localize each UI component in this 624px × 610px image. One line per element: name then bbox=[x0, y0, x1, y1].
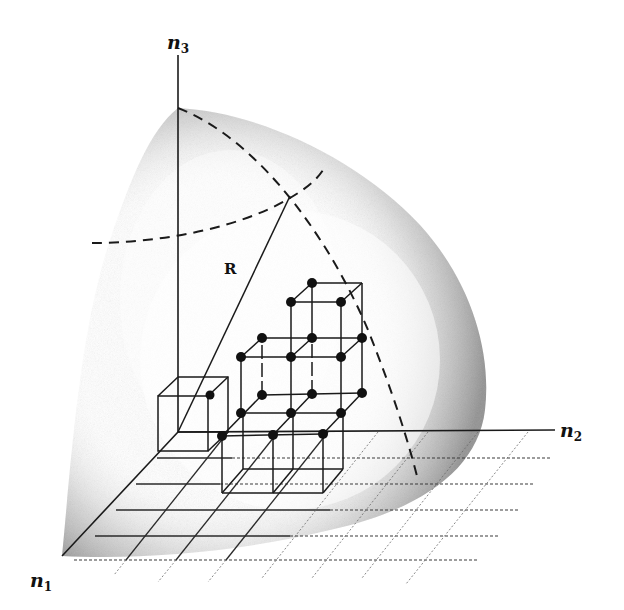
lattice-point bbox=[206, 391, 215, 400]
n2-axis-label: n2 bbox=[560, 419, 582, 444]
radius-label: R bbox=[224, 260, 237, 278]
n3-axis-label: n3 bbox=[167, 31, 189, 56]
n1-axis-label: n1 bbox=[30, 569, 52, 594]
sphere-octant-lattice-diagram: R bbox=[0, 0, 624, 610]
